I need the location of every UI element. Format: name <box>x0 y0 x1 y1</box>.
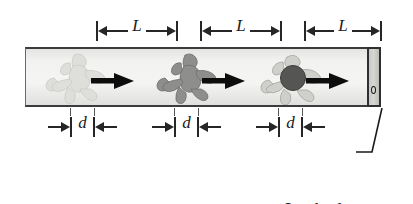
runner-figure-2 <box>155 51 247 105</box>
running-person-icon <box>155 51 247 105</box>
arrowhead-right-icon <box>165 122 174 132</box>
arrowhead-right-icon <box>61 122 70 132</box>
physics-figure: L L L <box>0 0 413 204</box>
dimension-label-d: d <box>278 113 303 133</box>
dimension-label-d: d <box>70 113 95 133</box>
dimension-label-L: L <box>304 16 382 36</box>
dimension-marker-d-2: d <box>174 116 199 138</box>
runner-figure-1 <box>44 51 136 105</box>
dark-head-circle-icon <box>281 66 306 91</box>
arrowhead-left-icon <box>95 122 104 132</box>
running-person-icon <box>259 51 351 105</box>
dimension-label-L: L <box>96 16 178 36</box>
arrowhead-left-icon <box>303 122 312 132</box>
dimension-marker-L-3: L <box>304 20 382 42</box>
locked-door-callout: Locked door <box>285 155 342 204</box>
door-knob-icon <box>371 86 376 94</box>
dimension-marker-L-2: L <box>200 20 282 42</box>
dimension-label-L: L <box>200 16 282 36</box>
locked-door <box>367 47 381 107</box>
dimension-marker-d-3: d <box>278 116 303 138</box>
callout-line-1: Locked <box>285 199 342 204</box>
runner-figure-3 <box>259 51 351 105</box>
arrowhead-right-icon <box>269 122 278 132</box>
dimension-marker-d-1: d <box>70 116 95 138</box>
arrowhead-left-icon <box>199 122 208 132</box>
dimension-marker-L-1: L <box>96 20 178 42</box>
running-person-icon <box>44 51 136 105</box>
dimension-label-d: d <box>174 113 199 133</box>
